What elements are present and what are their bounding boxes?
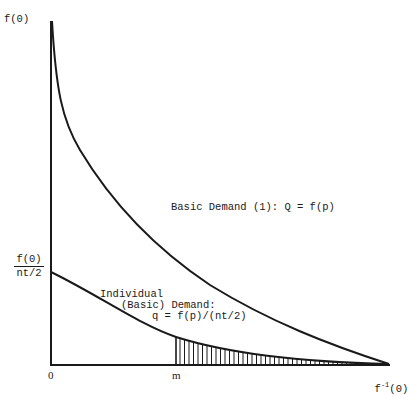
y-label-f0: f(0)	[4, 14, 29, 25]
hatched-region	[180, 338, 369, 365]
basic-demand-label: Basic Demand (1): Q = f(p)	[171, 202, 335, 213]
y-label-f0-over-nt2: f(0) nt/2	[14, 254, 44, 279]
f-inverse-arg: (0)	[389, 383, 408, 395]
x-label-f-inverse-0: f-1(0)	[362, 369, 408, 395]
y-label-numerator: f(0)	[14, 254, 44, 267]
demand-diagram	[0, 0, 409, 395]
y-label-denominator: nt/2	[14, 267, 44, 279]
individual-demand-label-line3: q = f(p)/(nt/2)	[152, 311, 247, 322]
x-label-origin: 0	[48, 370, 54, 381]
x-label-m: m	[172, 370, 181, 381]
